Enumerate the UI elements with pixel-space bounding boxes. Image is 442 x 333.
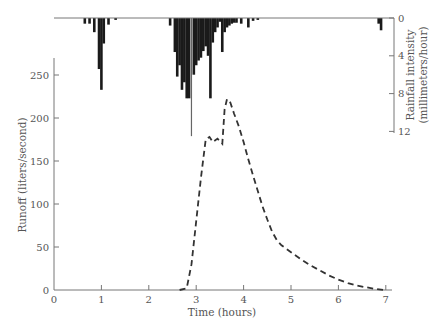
rainfall-bar (219, 18, 222, 22)
rainfall-bar (185, 18, 188, 98)
left-axis-title: Runoff (liters/second) (16, 117, 28, 232)
x-tick-label: 1 (98, 294, 104, 305)
rainfall-bar (228, 18, 231, 26)
x-axis-title: Time (hours) (188, 306, 256, 318)
rainfall-bar (223, 18, 226, 32)
rainfall-bar (377, 18, 380, 24)
rainfall-bar (188, 18, 191, 98)
rainfall-bar (98, 18, 101, 69)
rainfall-bar (200, 18, 203, 58)
rainfall-bars (84, 18, 383, 136)
rainfall-bar (84, 18, 87, 24)
rainfall-bar (226, 18, 229, 27)
runoff-rainfall-chart: 04812 Rainfall intensity (millimeters/ho… (0, 0, 442, 333)
rainfall-bar (211, 18, 214, 43)
rainfall-bar (230, 18, 233, 24)
rainfall-bar (204, 18, 207, 46)
left-tick-label: 100 (30, 199, 49, 210)
right-tick-label: 0 (398, 13, 404, 24)
rainfall-bar (195, 18, 198, 65)
rainfall-bar (214, 18, 217, 32)
x-tick-label: 0 (51, 294, 57, 305)
rainfall-bar (193, 18, 196, 75)
x-tick-label: 5 (288, 294, 294, 305)
x-tick-label: 7 (383, 294, 389, 305)
rainfall-bar (107, 18, 110, 25)
rainfall-bar (191, 18, 192, 136)
right-axis-title-line1: Rainfall intensity (404, 29, 416, 120)
rainfall-bar (202, 18, 205, 51)
rainfall-bar (235, 18, 238, 23)
rainfall-bar (380, 18, 383, 30)
left-tick-label: 150 (30, 156, 49, 167)
rainfall-bar (183, 18, 186, 82)
left-axis-ticks: 050100150200250 (30, 70, 59, 296)
left-tick-label: 250 (30, 70, 49, 81)
rainfall-bar (169, 18, 172, 26)
rainfall-bar (247, 18, 250, 27)
rainfall-bar (216, 18, 219, 27)
rainfall-bar (197, 18, 200, 61)
rainfall-bar (181, 18, 184, 90)
runoff-dashed-line (180, 99, 384, 290)
rainfall-bar (178, 18, 181, 65)
right-axis-title-line2: (millimeters/hour) (417, 27, 429, 124)
rainfall-bar (233, 18, 236, 23)
rainfall-bar (176, 18, 179, 77)
rainfall-bar (88, 18, 91, 24)
rainfall-bar (240, 18, 243, 24)
x-axis-ticks: 01234567 (51, 285, 389, 305)
rainfall-bar (207, 18, 210, 56)
rainfall-bar (209, 18, 212, 98)
left-tick-label: 200 (30, 113, 49, 124)
rainfall-bar (102, 18, 105, 44)
rainfall-bar (100, 18, 103, 90)
x-tick-label: 4 (240, 294, 246, 305)
x-tick-label: 2 (146, 294, 152, 305)
left-tick-label: 0 (43, 285, 49, 296)
x-tick-label: 3 (193, 294, 199, 305)
rainfall-bar (174, 18, 177, 52)
left-tick-label: 50 (36, 242, 49, 253)
right-tick-label: 12 (398, 126, 411, 137)
rainfall-bar (93, 18, 96, 32)
x-tick-label: 6 (335, 294, 341, 305)
rainfall-bar (221, 18, 224, 52)
